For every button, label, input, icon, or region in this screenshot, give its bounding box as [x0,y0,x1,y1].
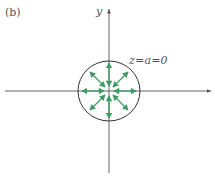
arrow-upright [113,72,128,87]
arrow-upleft [90,72,105,87]
arrow-downleft [90,95,105,110]
arrow-downright [113,95,128,110]
diagram-canvas [0,0,215,179]
